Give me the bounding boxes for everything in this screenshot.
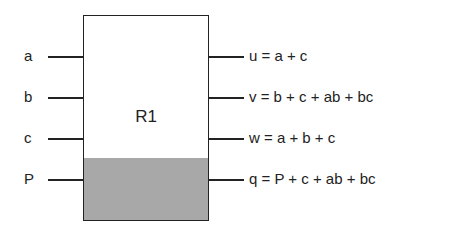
block-r1: R1 — [83, 15, 209, 221]
output-line — [209, 56, 244, 58]
shaded-region — [84, 158, 208, 220]
input-line — [48, 97, 83, 99]
output-label: q = P + c + ab + bc — [249, 170, 375, 188]
input-line — [48, 56, 83, 58]
output-label: w = a + b + c — [249, 129, 335, 147]
output-line — [209, 97, 244, 99]
input-line — [48, 138, 83, 140]
input-label: b — [24, 88, 32, 106]
output-line — [209, 179, 244, 181]
input-label: a — [24, 47, 32, 65]
input-line — [48, 179, 83, 181]
output-label: u = a + c — [249, 47, 307, 65]
output-label: v = b + c + ab + bc — [249, 88, 373, 106]
input-label: c — [24, 129, 32, 147]
input-label: P — [24, 170, 34, 188]
output-line — [209, 138, 244, 140]
block-label: R1 — [84, 107, 208, 127]
